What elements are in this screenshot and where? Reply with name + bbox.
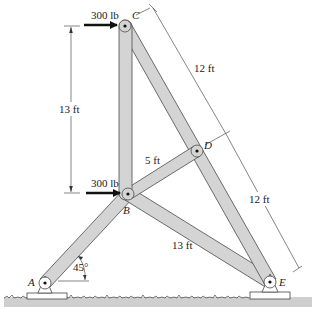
dimension-ce-diagonal: 12 ft 12 ft bbox=[136, 4, 302, 272]
dim-be-label: 13 ft bbox=[172, 239, 192, 251]
member-bc bbox=[119, 20, 132, 200]
dim-cd-label: 12 ft bbox=[194, 62, 214, 74]
dim-bc-label: 13 ft bbox=[59, 103, 79, 115]
truss-diagram: 300 lb 300 lb 13 ft 12 ft 12 ft 5 ft 13 … bbox=[0, 0, 312, 316]
load-b-label: 300 lb bbox=[91, 177, 119, 189]
dim-de-label: 12 ft bbox=[249, 193, 269, 205]
joint-label-c: C bbox=[132, 9, 140, 21]
joint-label-d: D bbox=[203, 139, 212, 151]
joint-label-a: A bbox=[27, 276, 35, 288]
load-c-label: 300 lb bbox=[91, 9, 119, 21]
joint-label-e: E bbox=[278, 276, 286, 288]
load-at-b: 300 lb bbox=[86, 177, 120, 193]
angle-a-label: 45° bbox=[73, 261, 88, 273]
dimension-bc-vertical: 13 ft bbox=[57, 26, 85, 193]
load-at-c: 300 lb bbox=[84, 9, 119, 25]
member-bd bbox=[126, 146, 200, 199]
joint-label-b: B bbox=[123, 204, 130, 216]
dim-bd-label: 5 ft bbox=[145, 154, 160, 166]
